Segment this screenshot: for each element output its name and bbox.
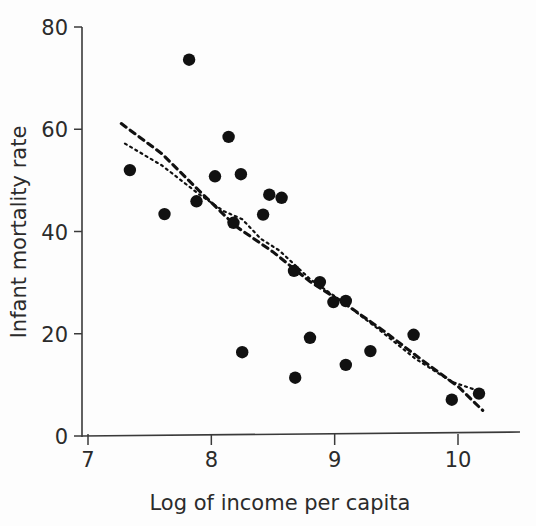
data-point [222, 131, 234, 143]
data-point [227, 217, 239, 229]
data-point [473, 387, 485, 399]
y-tick-group: 020406080 [41, 16, 82, 449]
y-tick-label: 60 [41, 118, 68, 142]
x-axis: 78910 [81, 432, 520, 472]
data-point [327, 296, 339, 308]
x-axis-title: Log of income per capita [150, 491, 411, 515]
data-point [446, 394, 458, 406]
y-axis: 020406080 [41, 16, 82, 449]
x-tick-label: 8 [205, 448, 218, 472]
data-point [190, 195, 202, 207]
y-tick-label: 20 [41, 323, 68, 347]
y-axis-title: Infant mortality rate [7, 126, 31, 339]
y-tick-label: 40 [41, 221, 68, 245]
data-point [275, 192, 287, 204]
x-axis-line [82, 432, 520, 436]
data-point [263, 189, 275, 201]
data-point [257, 208, 269, 220]
data-point [314, 276, 326, 288]
data-point [340, 295, 352, 307]
x-tick-group: 78910 [81, 434, 471, 472]
data-point [124, 164, 136, 176]
data-point [209, 170, 221, 182]
y-tick-label: 80 [41, 16, 68, 40]
data-point [304, 332, 316, 344]
chart-canvas: 020406080 78910 Log of income per capita… [0, 0, 536, 526]
fit-line-group [121, 124, 485, 411]
x-tick-label: 10 [445, 448, 472, 472]
data-point [158, 208, 170, 220]
data-point [235, 168, 247, 180]
data-point [236, 346, 248, 358]
data-point [183, 54, 195, 66]
data-point [288, 265, 300, 277]
data-point [407, 329, 419, 341]
x-tick-label: 7 [81, 448, 94, 472]
x-tick-label: 9 [328, 448, 341, 472]
data-point [340, 359, 352, 371]
data-point-group [124, 54, 486, 406]
scatter-plot-figure: 020406080 78910 Log of income per capita… [0, 0, 536, 526]
y-tick-label: 0 [55, 425, 68, 449]
trend-line-dotted [125, 144, 485, 394]
data-point [289, 372, 301, 384]
data-point [364, 345, 376, 357]
